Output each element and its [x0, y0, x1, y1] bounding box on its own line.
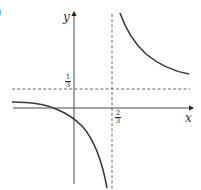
curve-left-branch	[12, 102, 107, 188]
hyperbola-plot	[0, 0, 201, 190]
vertical-asymptote-label: 2 3	[113, 110, 123, 125]
y-axis-label: y	[63, 10, 70, 24]
x-axis-label: x	[185, 111, 192, 125]
v-asym-numerator: 2	[116, 109, 120, 117]
horizontal-asymptote-label: 1 3	[63, 74, 73, 89]
curve-right-branch	[120, 13, 189, 74]
v-asym-denominator: 3	[116, 117, 120, 125]
h-asym-denominator: 3	[66, 81, 70, 89]
h-asym-numerator: 1	[66, 73, 70, 81]
